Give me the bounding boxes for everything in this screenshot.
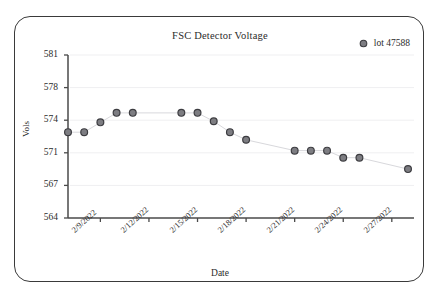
data-point [194, 109, 201, 116]
data-point [81, 129, 88, 136]
data-point [291, 147, 298, 154]
data-points [65, 109, 412, 172]
data-point [227, 129, 234, 136]
data-point [178, 109, 185, 116]
axis-lines [68, 55, 414, 218]
data-point [340, 154, 347, 161]
chart-figure: FSC Detector Voltage lot 47588 Vols Date… [0, 0, 440, 300]
data-point [210, 118, 217, 125]
y-tick-label: 567 [24, 179, 58, 189]
data-point [113, 109, 120, 116]
data-point [65, 129, 72, 136]
data-point [129, 109, 136, 116]
data-point [356, 154, 363, 161]
y-tick-label: 581 [24, 49, 58, 59]
plot-canvas [0, 0, 440, 300]
y-tick-label: 578 [24, 82, 58, 92]
data-point [307, 147, 314, 154]
grid-lines [70, 55, 414, 185]
y-tick-label: 564 [24, 212, 58, 222]
tick-marks [64, 55, 392, 222]
data-point [324, 147, 331, 154]
y-tick-label: 574 [24, 114, 58, 124]
data-point [405, 166, 412, 173]
data-point [97, 119, 104, 126]
data-point [243, 136, 250, 143]
y-tick-label: 571 [24, 147, 58, 157]
